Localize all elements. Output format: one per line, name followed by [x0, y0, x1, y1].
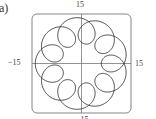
x-tick-label-max: 15 — [135, 59, 143, 68]
y-tick-label-max: 15 — [76, 0, 84, 9]
parametric-plot — [0, 0, 156, 119]
x-tick-label-min: −15 — [8, 58, 21, 67]
y-tick-label-min: −15 — [76, 115, 89, 119]
